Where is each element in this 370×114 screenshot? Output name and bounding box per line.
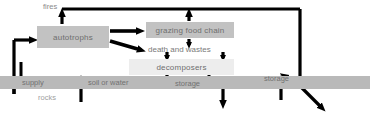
node-autotrophs-label: autotrophs [53, 33, 93, 42]
band-label-storage-right: storage [264, 74, 289, 83]
node-decomposers-label: decomposers [156, 63, 206, 72]
node-decomposers[interactable]: decomposers [129, 59, 234, 75]
band-label-storage-left: storage [175, 79, 200, 88]
band-label-soil-or-water: soil or water [88, 78, 128, 87]
node-death-and-wastes-label: death and wastes [148, 45, 211, 54]
node-fires-label: fires [43, 2, 57, 11]
node-autotrophs[interactable]: autotrophs [37, 26, 109, 48]
ecosystem-nutrient-cycle-diagram: autotrophs grazing food chain decomposer… [0, 0, 370, 114]
node-grazing-food-chain[interactable]: grazing food chain [146, 22, 234, 38]
band-label-rocks: rocks [38, 93, 56, 102]
node-grazing-food-chain-label: grazing food chain [156, 26, 225, 35]
band-label-supply: supply [22, 78, 44, 87]
arrow-autotrophs-to-death-wastes [110, 41, 141, 50]
